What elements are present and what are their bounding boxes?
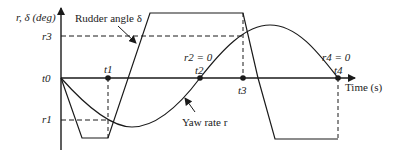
zigzag-maneuver-diagram: r, δ (deg) r3 t0 r1 Rudder angle δ t1 r2…	[0, 0, 393, 160]
r1-label: r1	[42, 114, 52, 125]
r2-note: r2 = 0	[184, 52, 212, 63]
t4-label: t4	[334, 65, 343, 76]
t4-point	[335, 75, 341, 81]
t1-label: t1	[104, 64, 113, 75]
t2-point	[197, 75, 203, 81]
y-axis-label: r, δ (deg)	[16, 12, 56, 23]
yaw-annotation: Yaw rate r	[182, 117, 227, 128]
t1-point	[105, 75, 111, 81]
t3-point	[240, 75, 246, 81]
r3-label: r3	[42, 31, 52, 42]
t3-label: t3	[238, 85, 247, 96]
yaw-pointer-arrow	[185, 98, 195, 112]
t2-label: t2	[195, 65, 204, 76]
time-axis-label: Time (s)	[345, 82, 382, 93]
rudder-annotation: Rudder angle δ	[75, 13, 142, 24]
r4-note: r4 = 0	[322, 52, 350, 63]
t0-label: t0	[42, 73, 51, 84]
diagram-canvas	[0, 0, 393, 160]
rudder-pointer-arrow	[118, 26, 136, 43]
